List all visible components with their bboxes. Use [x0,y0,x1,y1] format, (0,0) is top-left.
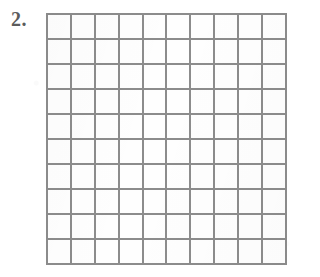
grid-cell[interactable] [48,40,72,65]
grid-cell[interactable] [263,115,287,140]
grid-cell[interactable] [191,90,215,115]
grid-cell[interactable] [48,90,72,115]
grid-cell[interactable] [120,115,144,140]
grid-cell[interactable] [215,115,239,140]
grid-cell[interactable] [239,15,263,40]
grid-cell[interactable] [239,40,263,65]
grid-cell[interactable] [191,15,215,40]
grid-cell[interactable] [120,165,144,190]
grid-cell[interactable] [263,240,287,265]
grid-cell[interactable] [239,140,263,165]
grid-cell[interactable] [263,165,287,190]
grid-cell[interactable] [167,115,191,140]
grid-cell[interactable] [48,190,72,215]
grid-cell[interactable] [144,40,168,65]
grid-cell[interactable] [215,65,239,90]
grid-cell[interactable] [72,115,96,140]
grid-cell[interactable] [120,40,144,65]
grid-cell[interactable] [72,140,96,165]
grid-cell[interactable] [48,15,72,40]
grid-cell[interactable] [167,65,191,90]
grid-cell[interactable] [167,40,191,65]
grid-cell[interactable] [215,90,239,115]
grid-cell[interactable] [144,190,168,215]
grid-cell[interactable] [48,140,72,165]
grid-cell[interactable] [72,65,96,90]
grid-cell[interactable] [239,190,263,215]
grid-cell[interactable] [144,215,168,240]
grid-cell[interactable] [263,190,287,215]
grid-cell[interactable] [215,190,239,215]
grid-cell[interactable] [263,15,287,40]
grid-cell[interactable] [72,240,96,265]
grid-cell[interactable] [263,140,287,165]
grid-cell[interactable] [263,40,287,65]
grid-cell[interactable] [191,190,215,215]
grid-cell[interactable] [96,240,120,265]
grid-cell[interactable] [144,90,168,115]
grid-cell[interactable] [72,15,96,40]
grid-cell[interactable] [120,90,144,115]
grid-cell[interactable] [120,215,144,240]
grid-cell[interactable] [48,115,72,140]
grid-cell[interactable] [72,90,96,115]
grid-cell[interactable] [96,40,120,65]
grid-cell[interactable] [120,65,144,90]
grid-cell[interactable] [239,115,263,140]
grid-cell[interactable] [215,15,239,40]
grid-cell[interactable] [72,190,96,215]
grid-cell[interactable] [215,165,239,190]
grid-cell[interactable] [167,15,191,40]
grid-cell[interactable] [96,140,120,165]
grid-cell[interactable] [167,240,191,265]
grid-cell[interactable] [167,90,191,115]
grid-cell[interactable] [167,215,191,240]
grid-cell[interactable] [215,40,239,65]
grid-cell[interactable] [144,240,168,265]
grid-cell[interactable] [144,15,168,40]
grid-cell[interactable] [72,165,96,190]
grid-cell[interactable] [72,40,96,65]
hundreds-grid[interactable] [46,13,287,265]
grid-cell[interactable] [96,215,120,240]
grid-cell[interactable] [167,165,191,190]
grid-cell[interactable] [120,15,144,40]
grid-cell[interactable] [263,65,287,90]
grid-cell[interactable] [96,65,120,90]
grid-cell[interactable] [167,190,191,215]
grid-cell[interactable] [215,140,239,165]
grid-cell[interactable] [48,240,72,265]
grid-cell[interactable] [72,215,96,240]
grid-cell[interactable] [263,90,287,115]
grid-cell[interactable] [239,65,263,90]
grid-cell[interactable] [120,240,144,265]
grid-cell[interactable] [191,65,215,90]
grid-cell[interactable] [239,90,263,115]
grid-cell[interactable] [120,140,144,165]
grid-cell[interactable] [191,115,215,140]
grid-cell[interactable] [167,140,191,165]
grid-cell[interactable] [96,190,120,215]
grid-cell[interactable] [96,165,120,190]
grid-cell[interactable] [191,140,215,165]
grid-cell[interactable] [48,65,72,90]
grid-cell[interactable] [239,215,263,240]
grid-cell[interactable] [239,165,263,190]
grid-cell[interactable] [144,65,168,90]
grid-cell[interactable] [191,165,215,190]
grid-cell[interactable] [48,215,72,240]
grid-cell[interactable] [215,240,239,265]
grid-cell[interactable] [144,140,168,165]
grid-cell[interactable] [48,165,72,190]
grid-cell[interactable] [120,190,144,215]
grid-cell[interactable] [191,215,215,240]
grid-cell[interactable] [144,165,168,190]
grid-cell[interactable] [96,90,120,115]
grid-cell[interactable] [215,215,239,240]
grid-cell[interactable] [144,115,168,140]
grid-cell[interactable] [263,215,287,240]
grid-cell[interactable] [96,15,120,40]
grid-cell[interactable] [96,115,120,140]
grid-cell[interactable] [191,40,215,65]
grid-cell[interactable] [191,240,215,265]
